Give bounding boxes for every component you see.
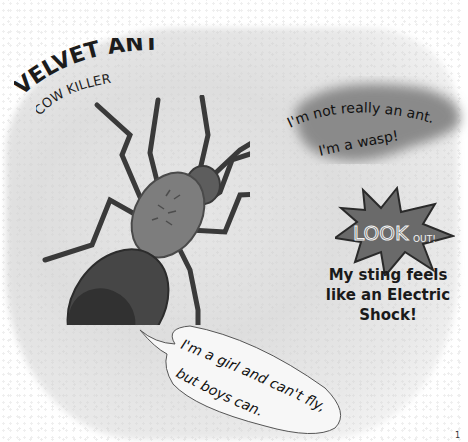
sting-line-2: like an Electric <box>318 285 458 305</box>
velvet-ant-illustration <box>40 95 250 325</box>
speech-bubble-wasp: I'm not really an ant. I'm a wasp! <box>272 68 468 164</box>
out-text: OUT! <box>413 234 436 244</box>
sting-line-1: My sting feels <box>318 265 458 285</box>
page-number: 1 <box>455 431 460 440</box>
sting-note: My sting feels like an Electric Shock! <box>318 265 458 325</box>
look-out-badge: LOOK OUT! <box>335 180 455 276</box>
look-text: LOOK <box>353 221 409 245</box>
speech-bubble-girl: I'm a girl and can't fly, but boys can. <box>135 318 355 438</box>
